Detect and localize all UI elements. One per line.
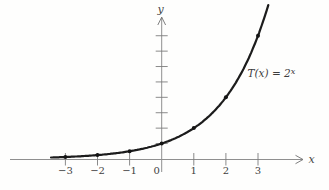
- chart-canvas: x −3−2−1123 0 y T(x) = 2x: [0, 0, 329, 190]
- data-point: [160, 142, 164, 146]
- data-point: [128, 149, 132, 153]
- x-axis: x −3−2−1123 0: [10, 153, 316, 177]
- x-axis-label: x: [309, 153, 316, 166]
- x-tick-label: 1: [191, 165, 197, 176]
- x-tick-label: −3: [58, 165, 73, 176]
- x-tick-label: 2: [223, 165, 229, 176]
- y-axis: y: [156, 3, 168, 173]
- data-point: [224, 95, 228, 99]
- data-point: [63, 155, 67, 159]
- x-tick-label: −2: [90, 165, 105, 176]
- data-point: [96, 153, 100, 157]
- function-label-base: T(x) = 2: [248, 67, 292, 79]
- data-point: [256, 34, 260, 38]
- function-label: T(x) = 2x: [248, 67, 296, 80]
- exponential-curve: [51, 5, 268, 157]
- x-tick-label: −1: [122, 165, 137, 176]
- data-point: [192, 126, 196, 130]
- x-tick-label: 3: [255, 165, 261, 176]
- y-axis-label: y: [157, 3, 165, 16]
- exponential-function-figure: x −3−2−1123 0 y T(x) = 2x: [0, 0, 329, 190]
- function-label-superscript: x: [291, 67, 296, 76]
- origin-label: 0: [154, 165, 160, 176]
